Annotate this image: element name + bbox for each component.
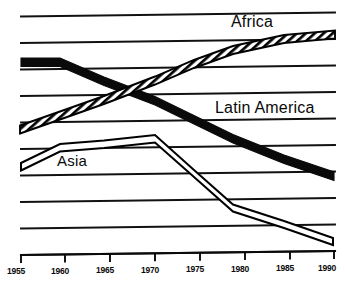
x-tick-label-1990: 1990 <box>318 263 336 273</box>
x-tick-label-1985: 1985 <box>276 263 294 273</box>
x-tick-label-1955: 1955 <box>7 266 25 276</box>
series-label-africa: Africa <box>231 13 273 31</box>
x-tick-label-1960: 1960 <box>51 266 69 276</box>
gridline <box>21 119 335 123</box>
gridlines <box>21 13 335 256</box>
gridline <box>21 198 335 202</box>
series-label-asia: Asia <box>57 152 87 169</box>
x-axis <box>21 251 335 263</box>
x-tick-label-1975: 1975 <box>186 264 204 274</box>
x-tick-label-1980: 1980 <box>231 264 249 274</box>
line-chart: Africa Latin America Asia 1955 1960 1965… <box>0 0 345 289</box>
series-africa <box>20 31 335 134</box>
gridline <box>21 92 335 96</box>
chart-canvas <box>0 0 345 289</box>
gridline <box>21 13 335 17</box>
x-axis-line <box>21 251 335 255</box>
x-tick-label-1970: 1970 <box>141 265 159 275</box>
series-africa-band <box>20 31 335 134</box>
x-tick-label-1965: 1965 <box>96 265 114 275</box>
gridline <box>21 172 335 176</box>
series-label-latin-america: Latin America <box>215 99 315 117</box>
